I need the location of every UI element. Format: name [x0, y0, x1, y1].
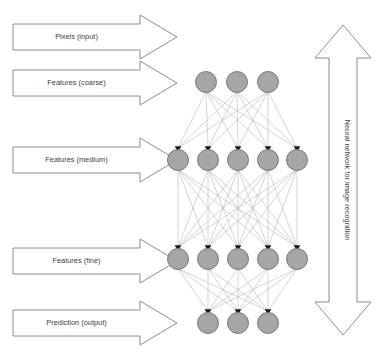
neuron-node — [198, 249, 219, 270]
node-medium-features-layer-4 — [287, 146, 308, 170]
connection-line — [208, 269, 297, 312]
connection-line — [206, 92, 238, 149]
node-coarse-features-layer-1 — [227, 72, 248, 93]
neuron-node — [258, 249, 279, 270]
diagram-canvas: Pixels (input)Features (coarse)Features … — [0, 0, 389, 356]
neuron-node — [168, 249, 189, 270]
connection-line — [206, 92, 297, 149]
side-arrow-label: Neural network for image recognition — [343, 120, 352, 241]
stage-arrow-label: Features (fine) — [52, 256, 100, 265]
node-medium-features-layer-2 — [228, 146, 249, 170]
neuron-node — [258, 313, 279, 334]
node-coarse-features-layer-0 — [196, 72, 217, 93]
connection-line — [178, 269, 208, 312]
neuron-node — [228, 313, 249, 334]
node-fine-features-layer-4 — [287, 245, 308, 269]
node-medium-features-layer-1 — [198, 146, 219, 170]
connection-line — [237, 92, 297, 149]
stage-arrow-3: Features (fine) — [13, 239, 177, 283]
stage-arrow-2: Features (medium) — [13, 138, 177, 182]
node-output-layer-0 — [198, 309, 219, 333]
connection-line — [268, 269, 297, 312]
neuron-node — [196, 72, 217, 93]
node-fine-features-layer-0 — [168, 245, 189, 269]
node-medium-features-layer-0 — [168, 146, 189, 170]
neural-network-diagram: Pixels (input)Features (coarse)Features … — [0, 0, 389, 356]
neuron-node — [258, 150, 279, 171]
neural-network-scope-arrow — [315, 25, 371, 335]
node-fine-features-layer-3 — [258, 245, 279, 269]
node-fine-features-layer-2 — [228, 245, 249, 269]
neuron-node — [228, 249, 249, 270]
neuron-node — [258, 72, 279, 93]
connection-line — [178, 92, 268, 149]
neuron-node — [228, 150, 249, 171]
neuron-node — [227, 72, 248, 93]
node-coarse-features-layer-2 — [258, 72, 279, 93]
node-output-layer-1 — [228, 309, 249, 333]
connections-group — [178, 92, 297, 312]
side-arrow-group: Neural network for image recognition — [315, 25, 371, 335]
neuron-node — [198, 150, 219, 171]
node-medium-features-layer-3 — [258, 146, 279, 170]
stage-arrow-label: Features (medium) — [45, 155, 107, 164]
neuron-node — [168, 150, 189, 171]
stage-arrow-4: Prediction (output) — [13, 301, 177, 345]
stage-arrow-label: Features (coarse) — [47, 78, 105, 87]
connection-line — [238, 269, 297, 312]
neuron-node — [287, 249, 308, 270]
neuron-node — [287, 150, 308, 171]
stage-arrow-1: Features (coarse) — [13, 61, 177, 105]
connection-line — [268, 92, 297, 149]
stage-arrow-label: Pixels (input) — [55, 32, 98, 41]
stage-arrows-group: Pixels (input)Features (coarse)Features … — [13, 15, 177, 345]
stage-arrow-label: Prediction (output) — [46, 318, 106, 327]
neuron-node — [198, 313, 219, 334]
stage-arrow-0: Pixels (input) — [13, 15, 177, 59]
node-output-layer-2 — [258, 309, 279, 333]
node-fine-features-layer-1 — [198, 245, 219, 269]
